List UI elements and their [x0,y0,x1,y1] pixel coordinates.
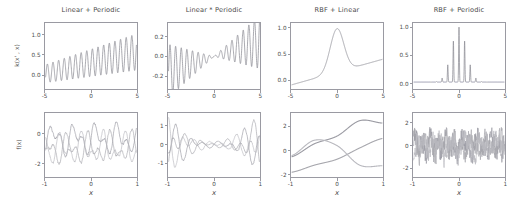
y-tick-mark [410,122,413,123]
samples-x-axis-label: x [412,189,506,197]
x-tick-label: 5 [504,93,508,99]
y-tick-label: 2 [405,120,409,126]
samples-plot-area [412,112,506,178]
y-tick-mark [410,145,413,146]
x-tick-mark [505,90,506,93]
x-tick-mark [459,178,460,181]
x-tick-mark [505,178,506,181]
y-tick-label: 0 [405,143,409,149]
y-tick-label: -2 [403,165,409,171]
x-tick-label: 0 [457,181,461,187]
x-tick-label: -1 [410,181,416,187]
x-tick-label: 1 [504,181,508,187]
x-tick-mark [412,178,413,181]
y-tick-mark [410,168,413,169]
